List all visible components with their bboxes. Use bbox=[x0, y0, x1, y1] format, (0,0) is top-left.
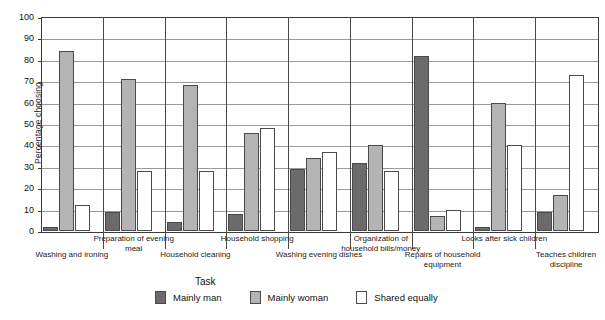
group-separator bbox=[412, 17, 413, 249]
category-label: Household cleaning bbox=[151, 250, 239, 260]
bar bbox=[306, 158, 321, 231]
bar bbox=[121, 79, 136, 231]
bar bbox=[553, 195, 568, 231]
bar bbox=[368, 145, 383, 231]
x-axis-title: Task bbox=[195, 276, 216, 287]
group-separator bbox=[165, 17, 166, 249]
legend-item[interactable]: Shared equally bbox=[356, 291, 437, 304]
legend-label: Shared equally bbox=[374, 292, 437, 303]
bar-group bbox=[412, 17, 474, 231]
bar bbox=[352, 163, 367, 231]
legend-label: Mainly woman bbox=[268, 292, 329, 303]
chart-legend: Mainly manMainly womanShared equally bbox=[155, 291, 438, 304]
bar-group bbox=[288, 17, 350, 231]
group-separator bbox=[226, 17, 227, 249]
bar bbox=[260, 128, 275, 231]
y-tick-label: 70 bbox=[5, 76, 34, 86]
bar bbox=[167, 222, 182, 231]
category-label: Repairs of household equipment bbox=[399, 250, 487, 269]
bar bbox=[446, 210, 461, 231]
group-separator bbox=[473, 17, 474, 249]
bar bbox=[183, 85, 198, 231]
y-tick-label: 90 bbox=[5, 33, 34, 43]
y-tick-label: 50 bbox=[5, 119, 34, 129]
bar bbox=[569, 75, 584, 231]
bar-group bbox=[535, 17, 597, 231]
y-tick-label: 60 bbox=[5, 98, 34, 108]
bar bbox=[43, 227, 58, 231]
legend-swatch-shared bbox=[356, 291, 367, 304]
bar-group bbox=[473, 17, 535, 231]
bar-group bbox=[226, 17, 288, 231]
category-label: Household shopping bbox=[213, 234, 301, 244]
category-label: Looks after sick children bbox=[460, 234, 548, 244]
bar-groups bbox=[41, 17, 597, 231]
bar bbox=[290, 169, 305, 231]
bar bbox=[244, 133, 259, 231]
y-tick-label: 10 bbox=[5, 205, 34, 215]
bar-group bbox=[41, 17, 103, 231]
bar bbox=[228, 214, 243, 231]
y-tick-label: 80 bbox=[5, 55, 34, 65]
bar-chart: Percentage choosing 01020304050607080901… bbox=[0, 0, 605, 320]
y-tick-label: 20 bbox=[5, 183, 34, 193]
bar bbox=[105, 212, 120, 231]
y-tick-mark bbox=[38, 232, 42, 233]
legend-swatch-woman bbox=[250, 291, 261, 304]
group-separator bbox=[350, 17, 351, 249]
bar bbox=[414, 56, 429, 231]
bar bbox=[322, 152, 337, 231]
bar bbox=[199, 171, 214, 231]
group-separator bbox=[535, 17, 536, 249]
bar bbox=[75, 205, 90, 231]
legend-swatch-man bbox=[155, 291, 166, 304]
bar-group bbox=[103, 17, 165, 231]
bar-group bbox=[165, 17, 227, 231]
y-tick-label: 0 bbox=[5, 226, 34, 236]
bar-group bbox=[350, 17, 412, 231]
bar bbox=[537, 212, 552, 231]
legend-label: Mainly man bbox=[173, 292, 222, 303]
bar bbox=[430, 216, 445, 231]
y-tick-label: 100 bbox=[5, 12, 34, 22]
bar bbox=[137, 171, 152, 231]
category-label: Teaches children discipline bbox=[522, 250, 605, 269]
bar bbox=[59, 51, 74, 231]
legend-item[interactable]: Mainly woman bbox=[250, 291, 357, 304]
group-separator bbox=[288, 17, 289, 249]
bar bbox=[507, 145, 522, 231]
bar bbox=[475, 227, 490, 231]
legend-item[interactable]: Mainly man bbox=[155, 291, 250, 304]
y-tick-label: 30 bbox=[5, 162, 34, 172]
y-tick-label: 40 bbox=[5, 140, 34, 150]
bar bbox=[384, 171, 399, 231]
group-separator bbox=[103, 17, 104, 249]
bar bbox=[491, 103, 506, 231]
